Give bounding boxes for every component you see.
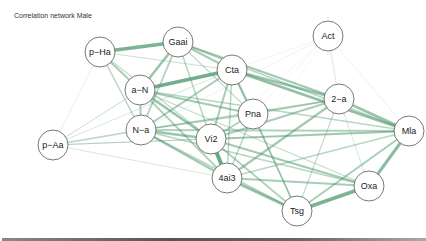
- node-2-a: 2−a: [324, 84, 354, 114]
- correlation-network: p−HaGaaiActa−NCtaPna2−ap−AaN−aVi2Mla4ai3…: [0, 0, 426, 241]
- node-label: Cta: [225, 65, 239, 75]
- nodes-layer: p−HaGaaiActa−NCtaPna2−ap−AaN−aVi2Mla4ai3…: [38, 21, 424, 226]
- node-Mla: Mla: [394, 116, 424, 146]
- node-label: Act: [321, 31, 335, 41]
- node-p-Aa: p−Aa: [38, 130, 68, 160]
- edge-a-N-p-Aa: [53, 90, 140, 145]
- edge-N-a-Mla: [141, 130, 409, 131]
- node-label: Tsg: [290, 206, 304, 216]
- node-Oxa: Oxa: [354, 171, 384, 201]
- node-label: Oxa: [361, 181, 378, 191]
- node-N-a: N−a: [126, 115, 156, 145]
- node-a-N: a−N: [125, 75, 155, 105]
- node-label: p−Aa: [42, 140, 63, 150]
- node-4ai3: 4ai3: [212, 163, 242, 193]
- edge-Mla-Tsg: [297, 131, 409, 211]
- node-label: 2−a: [331, 94, 346, 104]
- edge-Act-Vi2: [211, 36, 328, 139]
- node-Act: Act: [313, 21, 343, 51]
- node-p-Ha: p−Ha: [85, 37, 115, 67]
- node-label: Mla: [402, 126, 417, 136]
- node-Cta: Cta: [217, 55, 247, 85]
- node-Gaai: Gaai: [163, 27, 193, 57]
- node-label: Pna: [245, 109, 261, 119]
- node-label: N−a: [133, 125, 150, 135]
- node-Vi2: Vi2: [196, 124, 226, 154]
- node-Tsg: Tsg: [282, 196, 312, 226]
- node-label: a−N: [132, 85, 149, 95]
- node-label: 4ai3: [218, 173, 235, 183]
- edge-p-Ha-p-Aa: [53, 52, 100, 145]
- node-Pna: Pna: [238, 99, 268, 129]
- node-label: Vi2: [205, 134, 218, 144]
- node-label: Gaai: [168, 37, 187, 47]
- node-label: p−Ha: [89, 47, 111, 57]
